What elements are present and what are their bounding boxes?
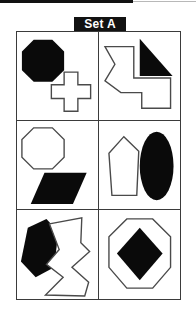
shape-ellipse-black <box>139 132 173 200</box>
set-title-label: Set A <box>74 17 126 32</box>
shape-parallelogram-black <box>31 173 87 204</box>
shape-octagon-black <box>22 40 64 82</box>
shape-zigzag-arrow-polygon-white <box>45 218 89 296</box>
grid-cell-row-2-col-2 <box>99 121 181 210</box>
shape-zigzag-polygon-white <box>104 47 170 109</box>
grid-cell-row-3-col-1 <box>17 210 99 299</box>
top-rule <box>0 0 133 3</box>
shape-cross-white <box>51 72 90 111</box>
shape-octagon-white <box>22 128 64 169</box>
grid-cell-row-2-col-1 <box>17 121 99 210</box>
grid-cell-row-3-col-2 <box>99 210 181 299</box>
grid-cell-row-1-col-1 <box>17 32 99 121</box>
shape-right-triangle-black <box>139 39 172 76</box>
top-rule-faint <box>133 1 196 2</box>
shape-grid <box>16 31 181 300</box>
shape-pentagon-kite-white <box>108 137 138 196</box>
grid-cell-row-1-col-2 <box>99 32 181 121</box>
